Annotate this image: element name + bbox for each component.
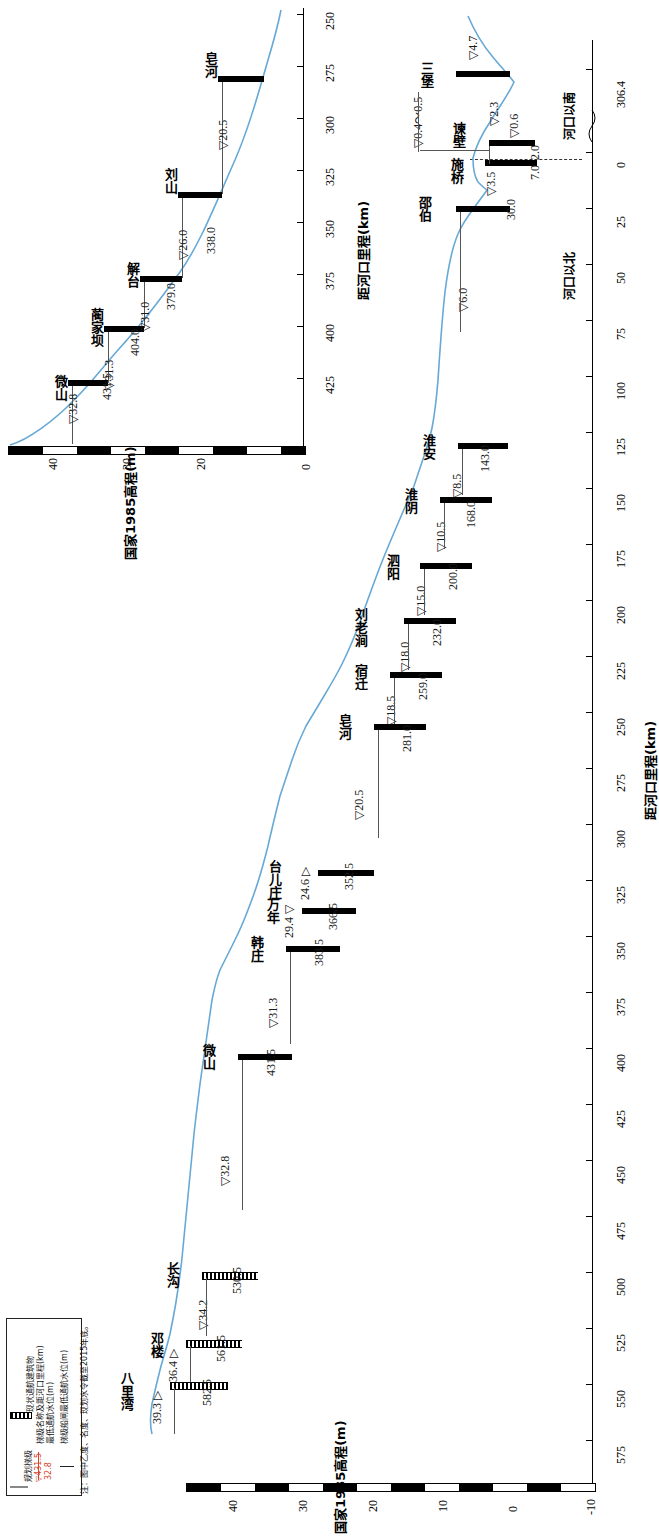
station-label-changgou: 长沟 [166, 1262, 179, 1288]
leader-huaiyin [444, 503, 445, 549]
station-label-siyang: 泗阳 [386, 554, 399, 580]
waterlevel-siyang: ▽15.0 [414, 586, 429, 616]
legend-label-planned-step: 规划梯级 [22, 1450, 33, 1482]
km-suqian: 259.0 [416, 673, 431, 700]
km-baliwan: 582.5 [200, 1379, 215, 1406]
km-liulaojian: 232.0 [430, 619, 445, 646]
km-shaobo: 30.0 [504, 199, 519, 220]
station-label-baliwan: 八里湾 [120, 1372, 133, 1411]
annot-leader-0 [418, 92, 419, 152]
legend-note: 注：图中乙度、名度、现划水令截至2015年底。 [78, 1322, 89, 1494]
legend-label-lock-min-nav-wl: 梯级船闸最低通航水位(m) [58, 1350, 69, 1444]
lock-bar-shaobo [456, 206, 510, 212]
leader-siyang [424, 569, 425, 615]
legend-sample-existing-structure [10, 1412, 32, 1419]
waterlevel-suqian: ▽18.5 [384, 696, 399, 726]
waterlevel-taierzhuang: 24.6 ▷ [298, 867, 313, 900]
station-label-taierzhuang: 台儿庄 [268, 860, 281, 899]
station-label-wannian: 万年 [266, 898, 279, 924]
leader-suqian [394, 678, 395, 724]
km-wannian: 366.5 [326, 903, 341, 930]
km-hanzhuang: 383.5 [312, 939, 327, 966]
km-huaian: 143.0 [478, 445, 493, 472]
waterlevel-wannian: 29.4 ▽ [282, 905, 297, 938]
leader-liulaojian [408, 624, 409, 670]
station-label-jianbi: 谏壁 [452, 122, 465, 148]
km-changgou: 530.5 [230, 1267, 245, 1294]
station-label-sanbao: 三堡 [420, 62, 433, 88]
lock-bar-sanbao [456, 71, 510, 77]
leader-weishan-lower [242, 1060, 243, 1210]
leader-zaohe [378, 730, 379, 838]
station-label-weishan-lower: 微山 [202, 1044, 215, 1070]
waterlevel-hanzhuang: ▽31.3 [266, 998, 281, 1028]
waterlevel-shaobo: ▽6.0 [456, 288, 471, 312]
waterlevel-liulaojian: ▽18.0 [398, 642, 413, 672]
waterlevel-shiqiao: ▽3.5 [484, 172, 499, 196]
lock-bar-baliwan [170, 1382, 228, 1390]
legend-sample-lock-wl [60, 1466, 74, 1467]
leader-shiqiao [489, 146, 490, 164]
waterlevel-2p3-annotation: ▽2.3 [487, 102, 502, 126]
waterlevel-huaiyin: ▽10.5 [434, 522, 449, 552]
leader-hanzhuang [290, 952, 291, 1044]
station-label-shaobo: 邵伯 [418, 196, 431, 222]
station-label-liulaojian: 刘老涧 [354, 608, 367, 647]
km-huaiyin: 168.0 [464, 501, 479, 528]
km-taierzhuang: 352.5 [342, 863, 357, 890]
km-shiqiao: 7.0 [528, 165, 543, 180]
leader-changgou [206, 1278, 207, 1336]
legend-label-min-nav-wl: 最低通航水位(m) [44, 1382, 55, 1444]
km-weishan-lower: 431.5 [264, 1049, 279, 1076]
leader-jianbi [420, 150, 490, 151]
km-jianbi: 2.0 [528, 145, 543, 160]
station-label-denglou: 邓楼 [150, 1332, 163, 1358]
km-zaohe: 281.0 [400, 725, 415, 752]
waterlevel-jianbi: ▽0.6 [507, 114, 522, 138]
waterlevel-changgou: ▽34.2 [196, 1300, 211, 1330]
station-label-shiqiao: 施桥 [450, 158, 463, 184]
station-label-zaohe: 皂河 [338, 714, 351, 740]
station-label-huaian: 淮安 [422, 434, 435, 460]
km-siyang: 200.0 [446, 563, 461, 590]
leader-shaobo [460, 212, 461, 332]
legend-underline-red [38, 1452, 39, 1480]
waterlevel-denglou: 36.4 ▷ [166, 1349, 181, 1382]
waterlevel-sanbao: ▽4.7 [466, 36, 481, 60]
leader-huaian [462, 449, 463, 495]
station-label-hanzhuang: 韩庄 [250, 936, 263, 962]
leader-baliwan [174, 1388, 175, 1434]
waterlevel-weishan-lower: ▽32.8 [218, 1156, 233, 1186]
waterlevel-range-annotation: ▽0.4～0.5 [408, 97, 426, 148]
station-label-huaiyin: 淮阴 [404, 488, 417, 514]
legend-sample-planned-step [10, 1486, 28, 1488]
km-denglou: 561.5 [214, 1335, 229, 1362]
waterlevel-zaohe: ▽20.5 [352, 790, 367, 820]
legend-sample-station-wl: 32.8 [44, 1462, 53, 1480]
waterlevel-baliwan: 39.3 ▷ [150, 1391, 165, 1424]
station-label-suqian: 宿迁 [354, 664, 367, 690]
